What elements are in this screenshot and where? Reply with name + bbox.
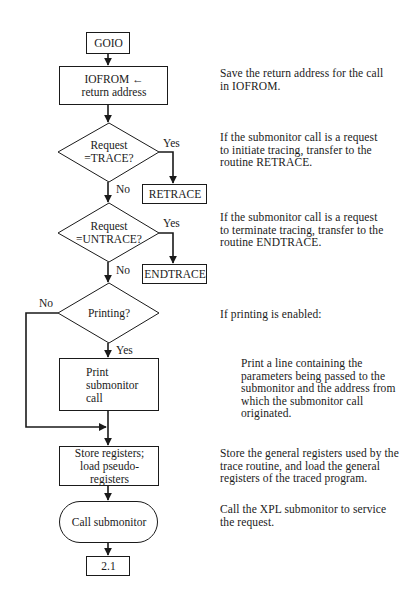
printing-yes-label: Yes (116, 344, 133, 357)
annotation-iofrom: Save the return address for the call in … (220, 67, 383, 92)
trace-decision-label: Request =TRACE? (68, 136, 150, 168)
print-call-label: Print submonitor call (86, 359, 158, 411)
connector-2-1-label: 2.1 (87, 557, 130, 576)
edge-untrace-yes-endtrace (159, 233, 173, 263)
annotation-untrace: If the submonitor call is a request to t… (220, 211, 383, 249)
goio-label: GOIO (87, 33, 130, 54)
trace-yes-label: Yes (163, 137, 180, 150)
untrace-yes-label: Yes (163, 217, 180, 230)
annotation-call-submonitor: Call the XPL submonitor to service the r… (220, 503, 386, 528)
iofrom-label: IOFROM ← return address (60, 67, 168, 105)
untrace-no-label: No (116, 264, 130, 277)
trace-no-label: No (116, 183, 130, 196)
endtrace-label: ENDTRACE (143, 265, 207, 284)
call-submonitor-label: Call submonitor (60, 502, 158, 543)
retrace-label: RETRACE (143, 185, 207, 204)
edge-trace-yes-retrace (159, 152, 173, 183)
annotation-printing: If printing is enabled: (220, 308, 322, 321)
annotation-print-call: Print a line containing the parameters b… (241, 357, 396, 420)
annotation-store-registers: Store the general registers used by the … (220, 447, 399, 485)
annotation-trace: If the submonitor call is a request to i… (220, 131, 377, 169)
untrace-decision-label: Request =UNTRACE? (64, 217, 154, 249)
store-registers-label: Store registers; load pseudo- registers (60, 447, 159, 486)
printing-decision-label: Printing? (68, 305, 150, 322)
printing-no-label: No (39, 297, 53, 310)
